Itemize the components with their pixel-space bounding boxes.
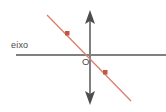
cartesian-plane-figure: eixo O	[0, 0, 166, 112]
point-upper-left-marker	[65, 31, 70, 36]
point-lower-right-marker	[103, 70, 108, 75]
origin-label: O	[82, 57, 89, 67]
horizontal-axis-label: eixo	[11, 41, 28, 50]
